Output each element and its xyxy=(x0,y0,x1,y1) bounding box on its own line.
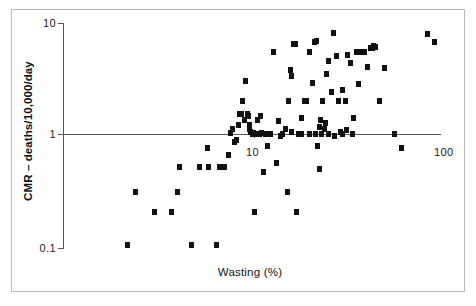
data-point xyxy=(285,189,290,195)
data-point xyxy=(344,127,349,133)
data-point xyxy=(283,126,288,132)
data-point xyxy=(326,58,331,64)
data-point xyxy=(286,98,291,104)
data-point xyxy=(152,209,157,215)
data-point xyxy=(261,169,266,175)
data-point xyxy=(307,131,312,137)
data-point xyxy=(240,98,245,104)
data-point xyxy=(340,87,345,93)
data-point xyxy=(169,209,174,215)
data-point xyxy=(382,65,387,71)
y-axis-line xyxy=(63,23,64,249)
data-point xyxy=(319,131,324,137)
data-point xyxy=(259,130,264,136)
data-point xyxy=(304,98,309,104)
data-point xyxy=(299,115,304,121)
data-point xyxy=(377,98,382,104)
y-tick-0-1 xyxy=(58,248,64,249)
data-point xyxy=(293,41,298,47)
data-point xyxy=(324,71,329,77)
y-tick-label-0-1: 0.1 xyxy=(16,242,56,254)
data-point xyxy=(365,64,370,70)
data-point xyxy=(133,189,138,195)
data-point xyxy=(268,131,273,137)
data-point xyxy=(252,209,257,215)
data-point xyxy=(177,164,182,170)
data-point xyxy=(350,131,355,137)
data-point xyxy=(323,120,328,126)
y-axis-title: CMR – deaths/10,000/day xyxy=(22,31,34,231)
data-point xyxy=(265,143,270,149)
data-point xyxy=(356,81,361,87)
data-point xyxy=(432,39,437,45)
data-point xyxy=(271,49,276,55)
data-point xyxy=(289,129,294,135)
data-point xyxy=(278,133,283,139)
data-point xyxy=(334,53,339,59)
data-point xyxy=(234,137,239,143)
data-point xyxy=(274,160,279,166)
data-point xyxy=(214,242,219,248)
data-point xyxy=(222,164,227,170)
data-point xyxy=(313,131,318,137)
scatter-plot: 10 1 0.1 10 100 CMR – deaths/10,000/day … xyxy=(0,0,476,306)
data-point xyxy=(332,133,337,139)
data-point xyxy=(175,189,180,195)
data-point xyxy=(348,60,353,66)
data-point xyxy=(289,73,294,79)
data-point xyxy=(230,126,235,132)
data-point xyxy=(329,89,334,95)
data-point xyxy=(310,80,315,86)
y-tick-label-10: 10 xyxy=(16,17,56,29)
y-tick-1 xyxy=(58,134,64,135)
x-tick-label-100: 100 xyxy=(434,146,454,158)
data-point xyxy=(299,131,304,137)
data-point xyxy=(239,111,244,117)
data-point xyxy=(226,152,231,158)
data-point xyxy=(276,118,281,124)
data-point xyxy=(205,145,210,151)
data-point xyxy=(362,49,367,55)
data-point xyxy=(197,164,202,170)
data-point xyxy=(288,67,293,73)
data-point xyxy=(315,143,320,149)
data-point xyxy=(247,126,252,132)
data-point xyxy=(373,44,378,50)
data-point xyxy=(307,49,312,55)
y-tick-10 xyxy=(58,23,64,24)
data-point xyxy=(354,49,359,55)
data-point xyxy=(343,98,348,104)
data-point xyxy=(246,113,251,119)
data-point xyxy=(314,38,319,44)
data-point xyxy=(331,30,336,36)
data-point xyxy=(336,98,341,104)
data-point xyxy=(189,242,194,248)
data-point xyxy=(392,131,397,137)
x-tick-label-10: 10 xyxy=(246,146,259,158)
data-point xyxy=(425,31,430,37)
x-axis-title: Wasting (%) xyxy=(150,266,350,278)
data-point xyxy=(236,122,241,128)
data-point xyxy=(326,131,331,137)
data-point xyxy=(351,115,356,121)
data-point xyxy=(317,166,322,172)
data-point xyxy=(125,242,130,248)
data-point xyxy=(399,145,404,151)
data-point xyxy=(243,78,248,84)
data-point xyxy=(206,164,211,170)
data-point xyxy=(345,52,350,58)
data-point xyxy=(258,113,263,119)
data-point xyxy=(294,209,299,215)
data-point xyxy=(320,98,325,104)
